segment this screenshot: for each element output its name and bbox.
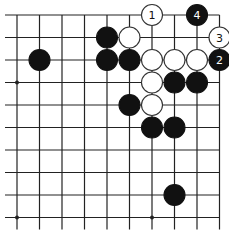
stone-disc: [97, 50, 118, 71]
stone-disc: [119, 50, 140, 71]
white-stone: 3: [209, 27, 229, 48]
white-stone: 1: [142, 5, 163, 26]
go-board: 1432: [0, 0, 229, 237]
stone-disc: [119, 95, 140, 116]
black-stone: [164, 72, 185, 93]
black-stone: [97, 50, 118, 71]
stone-disc: [187, 50, 208, 71]
white-stone: [164, 50, 185, 71]
black-stone: [142, 117, 163, 138]
black-stone: [164, 185, 185, 206]
star-point: [150, 216, 154, 220]
stone-disc: [142, 72, 163, 93]
black-stone: [187, 72, 208, 93]
star-point: [15, 81, 19, 85]
black-stone: 2: [209, 50, 229, 71]
white-stone: [142, 95, 163, 116]
stone-disc: [164, 117, 185, 138]
stone-disc: [142, 95, 163, 116]
stone-disc: [29, 50, 50, 71]
stone-disc: [164, 50, 185, 71]
black-stone: [119, 95, 140, 116]
stone-disc: [142, 50, 163, 71]
black-stone: 4: [187, 5, 208, 26]
black-stone: [119, 50, 140, 71]
stone-disc: [164, 72, 185, 93]
black-stone: [97, 27, 118, 48]
white-stone: [142, 50, 163, 71]
white-stone: [119, 27, 140, 48]
black-stone: [164, 117, 185, 138]
stone-disc: [119, 27, 140, 48]
stone-disc: [142, 117, 163, 138]
stone-disc: [187, 72, 208, 93]
move-number-label: 3: [216, 32, 223, 45]
stone-disc: [97, 27, 118, 48]
black-stone: [29, 50, 50, 71]
white-stone: [142, 72, 163, 93]
move-number-label: 4: [194, 9, 201, 22]
move-number-label: 2: [216, 54, 223, 67]
stone-disc: [164, 185, 185, 206]
move-number-label: 1: [149, 9, 156, 22]
star-point: [15, 216, 19, 220]
white-stone: [187, 50, 208, 71]
